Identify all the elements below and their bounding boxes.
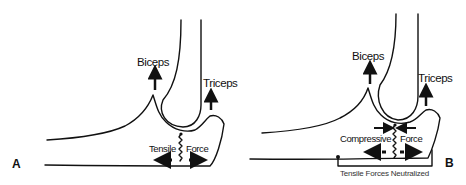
panel-label-a: A	[12, 157, 21, 171]
biceps-label-b: Biceps	[352, 50, 385, 62]
ulna-a	[45, 95, 224, 166]
tensile-label-a: Tensile	[149, 143, 176, 154]
compressive-label-b: Compressive	[340, 133, 391, 144]
force-label-a: Force	[186, 143, 208, 154]
humerus-b	[378, 14, 418, 120]
triceps-label-a: Triceps	[203, 77, 238, 89]
elbow-diagram: Biceps Triceps Tensile Force A Biceps Tr…	[0, 0, 466, 185]
panel-b: Biceps Triceps Compressive Force Tensile…	[250, 14, 454, 178]
biceps-label-a: Biceps	[137, 56, 170, 68]
wire-point-b	[336, 155, 340, 159]
humerus-a	[161, 20, 201, 127]
fracture-line-b	[393, 125, 396, 158]
ulna-b	[250, 88, 440, 159]
fracture-point-b	[393, 123, 396, 126]
caption-tensile-neutralized: Tensile Forces Neutralized	[340, 169, 429, 178]
force-label-b: Force	[400, 133, 422, 144]
triceps-label-b: Triceps	[418, 72, 453, 84]
fracture-line-a	[179, 134, 182, 161]
wire-point-a	[179, 132, 182, 135]
panel-a: Biceps Triceps Tensile Force A	[12, 20, 238, 171]
panel-label-b: B	[445, 156, 454, 170]
